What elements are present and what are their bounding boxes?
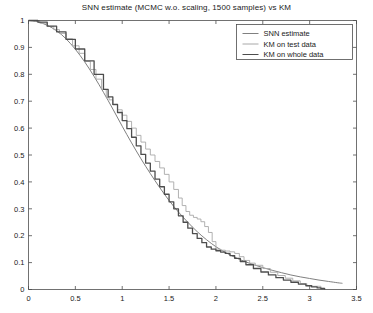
legend-label-0: SNN estimate <box>264 29 310 38</box>
x-tick-label: 3.5 <box>351 294 361 303</box>
y-tick-label: 0.6 <box>14 124 24 133</box>
chart-legend: SNN estimateKM on test dataKM on whole d… <box>237 25 353 60</box>
y-tick-label: 0.3 <box>14 205 24 214</box>
series-line-1 <box>29 21 325 290</box>
y-tick-label: 0.1 <box>14 258 24 267</box>
x-tick-label: 1.5 <box>164 294 174 303</box>
x-axis-ticks: 00.511.522.533.5 <box>26 21 361 303</box>
chart-plot-area: 00.10.20.30.40.50.60.70.80.91 00.511.522… <box>0 0 373 313</box>
y-tick-label: 0 <box>20 285 24 294</box>
y-tick-label: 1 <box>20 16 24 25</box>
x-tick-label: 1 <box>120 294 124 303</box>
data-series-group <box>29 21 343 290</box>
axis-frame <box>29 21 357 290</box>
y-tick-label: 0.8 <box>14 70 24 79</box>
y-tick-label: 0.7 <box>14 97 24 106</box>
legend-label-2: KM on whole data <box>264 50 325 59</box>
series-line-2 <box>29 21 325 290</box>
x-tick-label: 0 <box>26 294 30 303</box>
figure-container: SNN estimate (MCMC w.o. scaling, 1500 sa… <box>0 0 373 313</box>
legend-label-1: KM on test data <box>264 40 317 49</box>
x-tick-label: 0.5 <box>70 294 80 303</box>
y-tick-label: 0.9 <box>14 43 24 52</box>
y-tick-label: 0.5 <box>14 151 24 160</box>
series-line-0 <box>29 21 343 284</box>
x-tick-label: 2 <box>214 294 218 303</box>
y-tick-label: 0.2 <box>14 231 24 240</box>
x-tick-label: 3 <box>308 294 312 303</box>
x-tick-label: 2.5 <box>258 294 268 303</box>
y-tick-label: 0.4 <box>14 178 24 187</box>
